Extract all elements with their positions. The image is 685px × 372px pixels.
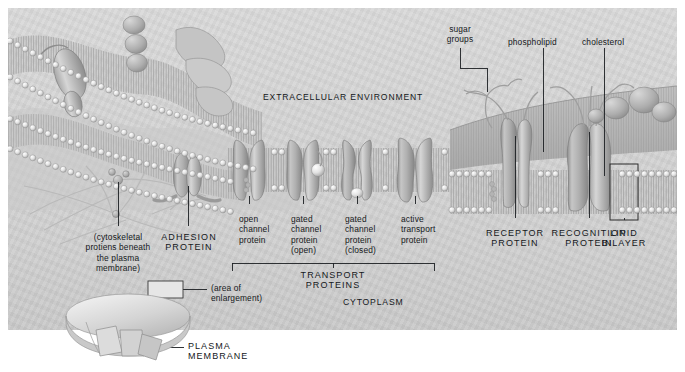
figure-root: sugar groups phospholipid cholesterol EX… (0, 0, 685, 372)
open-channel-protein-label: open channel protein (239, 214, 269, 245)
adhesion-protein-label: ADHESION PROTEIN (148, 232, 230, 253)
cytoplasm-label: CYTOPLASM (343, 297, 404, 307)
sugar-groups-label: sugar groups (429, 24, 491, 45)
active-transport-protein-label: active transport protein (401, 214, 435, 245)
gated-channel-protein-closed-label: gated channel protein (closed) (345, 214, 376, 255)
lipid-bilayer-label: LIPID BILAYER (598, 228, 650, 249)
transport-proteins-bracket-label: TRANSPORT PROTEINS (288, 270, 378, 291)
extracellular-environment-label: EXTRACELLULAR ENVIRONMENT (263, 92, 423, 102)
gated-channel-protein-open-label: gated channel protein (open) (291, 214, 321, 255)
plasma-membrane-label: PLASMA MEMBRANE (188, 341, 248, 362)
area-of-enlargement-label: (area of enlargement) (211, 283, 262, 304)
phospholipid-label: phospholipid (508, 37, 557, 47)
cholesterol-label: cholesterol (582, 37, 624, 47)
label-layer: sugar groups phospholipid cholesterol EX… (0, 0, 685, 372)
